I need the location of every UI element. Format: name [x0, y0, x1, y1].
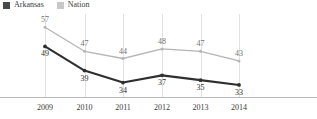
data-point-nation-2013 — [199, 50, 202, 53]
data-point-arkansas-2009 — [43, 45, 47, 49]
x-axis-label-2013: 2013 — [193, 103, 209, 112]
value-label-nation-2009: 57 — [41, 16, 49, 24]
legend-item-arkansas: Arkansas — [3, 1, 44, 9]
data-point-nation-2009 — [44, 26, 47, 29]
series-line-arkansas — [45, 46, 239, 85]
value-label-arkansas-2010: 39 — [81, 75, 89, 83]
legend-item-nation: Nation — [57, 1, 90, 9]
legend-swatch-nation — [57, 2, 64, 9]
data-point-nation-2010 — [83, 50, 86, 53]
x-axis-label-2011: 2011 — [115, 103, 131, 112]
value-label-nation-2012: 48 — [158, 38, 166, 46]
x-axis-label-2009: 2009 — [37, 103, 53, 112]
data-point-arkansas-2010 — [83, 69, 87, 73]
data-point-arkansas-2011 — [121, 81, 125, 85]
x-axis-label-2012: 2012 — [154, 103, 170, 112]
value-label-arkansas-2013: 35 — [197, 84, 205, 92]
data-point-arkansas-2014 — [237, 83, 241, 87]
x-axis-label-2010: 2010 — [77, 103, 93, 112]
legend-label-arkansas: Arkansas — [14, 1, 44, 9]
x-axis-label-2014: 2014 — [231, 103, 247, 112]
data-point-nation-2014 — [238, 59, 241, 62]
chart-legend: Arkansas Nation — [3, 1, 90, 9]
value-label-arkansas-2009: 49 — [41, 50, 49, 58]
value-label-nation-2010: 47 — [81, 40, 89, 48]
plot-area: 493934373533574744484743 — [0, 14, 317, 98]
value-label-arkansas-2012: 37 — [158, 79, 166, 87]
data-point-arkansas-2012 — [160, 73, 164, 77]
data-point-nation-2012 — [161, 47, 164, 50]
legend-swatch-arkansas — [3, 2, 10, 9]
x-axis-labels: 200920102011201220132014 — [0, 103, 317, 115]
data-point-nation-2011 — [122, 57, 125, 60]
series-line-nation — [45, 27, 239, 61]
value-label-nation-2011: 44 — [119, 48, 127, 56]
value-label-nation-2014: 43 — [235, 50, 243, 58]
legend-label-nation: Nation — [68, 1, 90, 9]
value-label-arkansas-2011: 34 — [119, 87, 127, 95]
value-label-nation-2013: 47 — [197, 40, 205, 48]
line-chart: Arkansas Nation 493934373533574744484743… — [0, 0, 317, 119]
data-point-arkansas-2013 — [199, 78, 203, 82]
value-label-arkansas-2014: 33 — [235, 89, 243, 97]
